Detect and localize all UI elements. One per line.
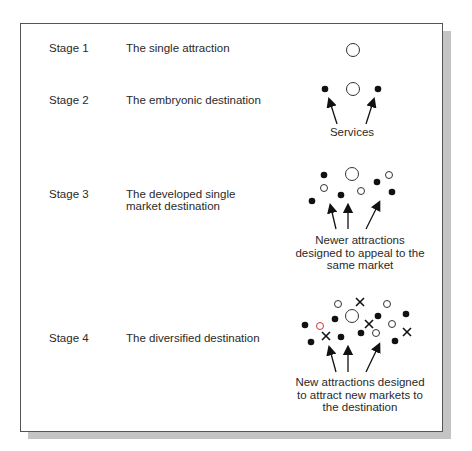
- arrow-icon: [330, 102, 337, 124]
- attraction-circle-icon: [347, 83, 360, 96]
- service-dot-icon: [375, 86, 382, 93]
- arrow-icon: [366, 102, 373, 124]
- service-dot-icon: [322, 86, 329, 93]
- attraction-circle-icon: [347, 44, 360, 57]
- diagram-symbols: [0, 0, 472, 451]
